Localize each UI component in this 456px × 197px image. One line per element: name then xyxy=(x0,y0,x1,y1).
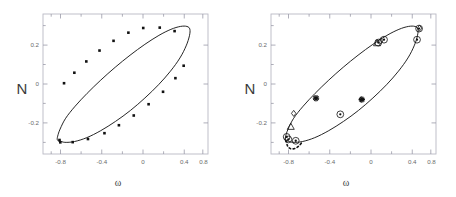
x-tick-labels-right: -0.8 -0.4 0 0.4 0.8 xyxy=(283,158,436,165)
data-point-marker-star xyxy=(313,95,319,101)
data-point-marker-filled-square xyxy=(59,141,62,144)
data-point-marker-filled-square xyxy=(182,64,185,67)
x-axis-label-right: ω xyxy=(343,177,350,188)
data-point-marker-star xyxy=(359,96,365,102)
data-point-marker-filled-square xyxy=(158,26,161,29)
y-axis-label-left: N xyxy=(17,80,28,97)
data-point-marker-filled-square xyxy=(58,139,61,142)
y-axis-label-right: N xyxy=(245,80,256,97)
series-sampled-points xyxy=(58,26,185,143)
data-point-marker-filled-square xyxy=(103,132,106,135)
data-point-marker-filled-square xyxy=(132,114,135,117)
x-tick-label: 0.4 xyxy=(408,158,417,165)
data-point-marker-filled-square xyxy=(174,77,177,80)
x-tick-label: 0.8 xyxy=(199,158,208,165)
data-layer-right xyxy=(283,25,422,149)
y-tick-label: -0.2 xyxy=(256,119,267,126)
x-tick-label: 0 xyxy=(369,158,373,165)
plot-frame-right xyxy=(271,14,436,154)
axis-ticks-left xyxy=(43,14,208,154)
x-tick-label: -0.4 xyxy=(96,158,107,165)
data-point-marker-circle-dot xyxy=(292,137,299,144)
data-point-marker-filled-square xyxy=(147,103,150,106)
x-tick-labels-left: -0.8 -0.4 0 0.4 0.8 xyxy=(55,158,208,165)
data-point-marker-filled-square xyxy=(142,27,145,30)
x-tick-label: -0.8 xyxy=(283,158,294,165)
y-tick-label: 0.2 xyxy=(258,41,267,48)
y-tick-label: 0 xyxy=(36,80,40,87)
data-point-marker-circle-dot xyxy=(337,111,344,118)
data-point-marker-filled-square xyxy=(118,124,121,127)
y-tick-label: -0.2 xyxy=(28,119,39,126)
y-tick-label: 0 xyxy=(264,80,268,87)
y-tick-labels-right: 0.2 0 -0.2 xyxy=(256,41,267,126)
chart-panel-left: N ω xyxy=(0,0,228,197)
series-diamond-markers xyxy=(291,25,421,116)
x-tick-label: 0 xyxy=(141,158,145,165)
y-tick-label: 0.2 xyxy=(30,41,39,48)
plot-frame-left xyxy=(43,14,208,154)
data-point-marker-filled-square xyxy=(85,60,88,63)
data-layer-left xyxy=(57,26,190,144)
x-tick-label: -0.4 xyxy=(324,158,335,165)
data-point-marker-filled-square xyxy=(63,82,66,85)
data-point-marker-filled-square xyxy=(112,40,115,43)
x-tick-label: -0.8 xyxy=(55,158,66,165)
series-star-markers xyxy=(313,95,365,103)
x-tick-label: 0.4 xyxy=(180,158,189,165)
data-point-marker-circle-dot xyxy=(283,133,290,140)
data-point-marker-filled-square xyxy=(87,138,90,141)
series-circle-dot-markers xyxy=(283,25,422,144)
data-point-marker-filled-square xyxy=(71,141,74,144)
data-point-marker-filled-square xyxy=(162,90,165,93)
y-tick-labels-left: 0.2 0 -0.2 xyxy=(28,41,39,126)
series-limit-cycle-orbit xyxy=(57,26,190,142)
series-limit-cycle-orbit xyxy=(285,26,418,142)
data-point-marker-filled-square xyxy=(98,49,101,52)
figure-root: N ω xyxy=(0,0,456,197)
data-point-marker-filled-square xyxy=(73,71,76,74)
x-tick-label: 0.8 xyxy=(427,158,436,165)
series-triangle-markers xyxy=(287,40,380,130)
axis-ticks-right xyxy=(271,14,436,154)
data-point-marker-filled-square xyxy=(127,31,130,34)
data-point-marker-filled-square xyxy=(173,30,176,33)
x-axis-label-left: ω xyxy=(115,177,122,188)
chart-panel-right: N ω xyxy=(228,0,456,197)
